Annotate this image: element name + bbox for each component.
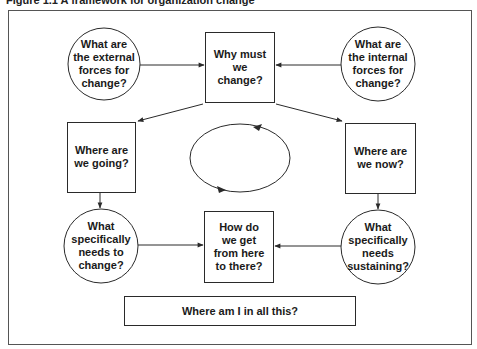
edge-why-to-going bbox=[138, 104, 203, 121]
node-internal-forces: What are the internal forces for change? bbox=[341, 27, 415, 101]
node-external-forces: What are the external forces for change? bbox=[68, 28, 140, 100]
node-where-now: Where are we now? bbox=[345, 123, 416, 193]
node-where-going: Where are we going? bbox=[67, 122, 136, 192]
node-where-am-i: Where am I in all this? bbox=[124, 296, 356, 326]
cycle-ellipse bbox=[190, 124, 290, 192]
cycle-arrow-bottom-icon bbox=[217, 186, 226, 193]
node-why-change: Why must we change? bbox=[205, 32, 275, 102]
edge-why-to-now bbox=[276, 104, 342, 121]
node-how-get-there: How do we get from here to there? bbox=[204, 211, 274, 282]
node-needs-change: What specifically needs to change? bbox=[64, 209, 138, 283]
node-needs-sustaining: What specifically needs sustaining? bbox=[341, 210, 415, 284]
